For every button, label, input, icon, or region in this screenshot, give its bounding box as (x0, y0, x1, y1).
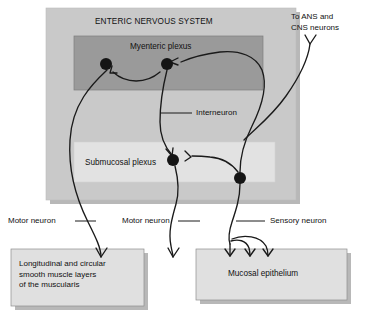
sensory-axon-to-ans-cns (244, 44, 310, 140)
muscularis-box-label: Longitudinal and circular smooth muscle … (19, 259, 106, 291)
soma-myenteric-left (100, 58, 112, 70)
soma-myenteric-right (161, 58, 173, 70)
motor-neuron-middle-label: Motor neuron (122, 216, 170, 227)
enteric-nervous-system-diagram: ENTERIC NERVOUS SYSTEM Myenteric plexus … (0, 0, 366, 314)
soma-sensory (234, 172, 246, 184)
sensory-neuron-label: Sensory neuron (270, 216, 326, 227)
myenteric-plexus-label: Myenteric plexus (130, 42, 191, 53)
motor-neuron-middle-terminal (168, 248, 179, 257)
sensory-dendrite-branch-2 (231, 240, 250, 256)
sensory-neuron-dendrite-trunk (229, 184, 240, 244)
submucosal-plexus-label: Submucosal plexus (85, 158, 156, 169)
to-ans-cns-terminal-fork (305, 35, 316, 44)
motor-neuron-middle-axon (170, 166, 178, 257)
myenteric-inter-soma-connector (113, 72, 160, 81)
mucosal-epithelium-label: Mucosal epithelium (228, 269, 298, 280)
sensory-collateral-terminal-fork (185, 151, 191, 161)
soma-submucosal (167, 154, 179, 166)
motor-neuron-left-label: Motor neuron (8, 216, 56, 227)
to-ans-and-cns-neurons-label: To ANS and CNS neurons (291, 12, 339, 33)
sensory-collateral-submucosal (192, 156, 238, 172)
motor-neuron-left-terminal (96, 248, 107, 257)
interneuron-label: Interneuron (196, 108, 237, 119)
page-title: ENTERIC NERVOUS SYSTEM (95, 17, 213, 28)
